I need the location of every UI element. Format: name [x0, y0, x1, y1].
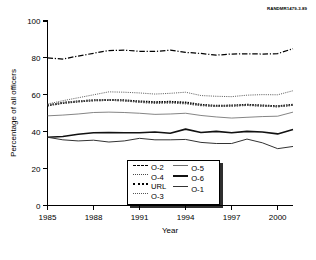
y-axis-ticks: 020406080100 — [27, 17, 47, 211]
legend-label: O-5 — [191, 165, 204, 173]
legend-label: O-3 — [151, 193, 164, 201]
chart-plot: 020406080100 198519881991199419972000 Pe… — [0, 0, 316, 260]
legend-item-o-4[interactable]: O-4 — [133, 174, 166, 183]
y-axis-title: Percentage of all officers — [9, 69, 18, 157]
x-tick-label: 1991 — [131, 213, 149, 222]
chart-legend: O-2O-4URLO-3O-5O-6O-1 — [127, 160, 220, 205]
data-series-group — [48, 49, 294, 149]
y-tick-label: 80 — [32, 54, 41, 63]
legend-item-o-2[interactable]: O-2 — [133, 164, 166, 173]
legend-swatch-o-4-icon — [133, 174, 148, 181]
x-tick-label: 1994 — [177, 213, 195, 222]
series-line-o-5 — [48, 112, 294, 118]
series-line-o-1 — [48, 137, 294, 148]
legend-swatch-o-3-icon — [133, 193, 148, 200]
y-tick-label: 40 — [32, 128, 41, 137]
legend-swatch-o-6-icon — [173, 175, 188, 183]
legend-swatch-o-1-icon — [173, 186, 188, 193]
legend-label: O-6 — [191, 175, 204, 183]
legend-swatch-o-5-icon — [173, 165, 188, 172]
legend-column-2: O-5O-6O-1 — [173, 164, 204, 201]
x-tick-label: 1985 — [39, 213, 57, 222]
x-axis-title: Year — [162, 226, 179, 235]
series-line-o-6 — [48, 129, 294, 137]
y-tick-label: 100 — [27, 17, 41, 26]
y-tick-label: 20 — [32, 165, 41, 174]
series-line-o-2 — [48, 49, 294, 59]
x-axis-ticks: 198519881991199419972000 — [39, 206, 288, 222]
legend-label: URL — [151, 183, 166, 191]
legend-item-url[interactable]: URL — [133, 183, 166, 192]
figure: RANDMR1479-3.89 020406080100 19851988199… — [0, 0, 316, 260]
x-tick-label: 1997 — [223, 213, 241, 222]
legend-item-o-3[interactable]: O-3 — [133, 193, 166, 202]
series-line-o-3 — [48, 100, 294, 107]
legend-label: O-4 — [151, 174, 164, 182]
legend-swatch-url-icon — [133, 183, 148, 191]
y-tick-label: 0 — [36, 202, 41, 211]
legend-swatch-o-2-icon — [133, 165, 148, 172]
legend-item-o-1[interactable]: O-1 — [173, 185, 204, 195]
x-tick-label: 1988 — [85, 213, 103, 222]
legend-item-o-6[interactable]: O-6 — [173, 175, 204, 185]
legend-columns: O-2O-4URLO-3O-5O-6O-1 — [133, 164, 215, 201]
x-tick-label: 2000 — [269, 213, 287, 222]
y-tick-label: 60 — [32, 91, 41, 100]
legend-item-o-5[interactable]: O-5 — [173, 164, 204, 174]
legend-column-1: O-2O-4URLO-3 — [133, 164, 166, 201]
legend-label: O-1 — [191, 186, 204, 194]
legend-label: O-2 — [151, 164, 164, 172]
